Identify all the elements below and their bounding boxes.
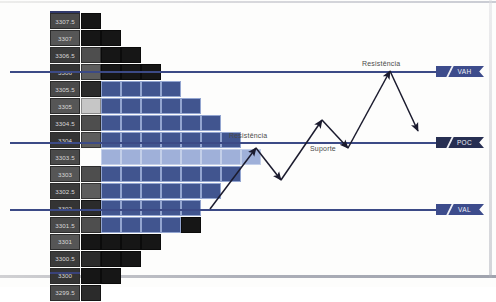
level-tag-vah[interactable]: VAH [436,66,484,77]
histogram-row [81,30,261,46]
histogram-cell [141,234,161,250]
level-tag-val[interactable]: VAL [436,204,484,215]
histogram-cell [181,217,201,233]
price-axis-label-text: 3303 [58,171,72,178]
histogram-row [81,268,261,284]
price-axis-label: 3302.5 [50,183,80,199]
price-axis-label-text: 3301.5 [55,222,75,229]
price-axis-label: 3299.5 [50,285,80,301]
histogram-cell [101,268,121,284]
histogram-cell [161,115,181,131]
histogram-cell [141,149,161,165]
volume-histogram [81,13,261,302]
price-axis: 3307.533073306.533063305.533053304.53304… [50,13,80,302]
histogram-cell [241,149,261,165]
histogram-cell [81,13,101,29]
price-axis-label-text: 3304.5 [55,120,75,127]
histogram-cell [181,183,201,199]
histogram-cell [161,217,181,233]
histogram-cell [121,149,141,165]
histogram-cell [81,251,101,267]
price-axis-label: 3304.5 [50,115,80,131]
price-axis-cap-bottom [50,272,80,274]
histogram-cell [101,47,121,63]
histogram-cell [121,251,141,267]
histogram-cell [101,183,121,199]
histogram-cell [141,81,161,97]
histogram-cell [101,132,121,148]
histogram-cell [181,149,201,165]
histogram-cell [201,149,221,165]
price-axis-label: 3305.5 [50,81,80,97]
histogram-cell [121,166,141,182]
histogram-row [81,47,261,63]
histogram-cell [81,115,101,131]
price-axis-label: 3307.5 [50,13,80,29]
histogram-cell [161,166,181,182]
price-axis-label: 3305 [50,98,80,114]
histogram-cell [141,132,161,148]
page-border-top [0,1,496,3]
price-axis-label: 3304 [50,132,80,148]
histogram-row [81,285,261,301]
histogram-cell [121,183,141,199]
price-axis-label: 3300.5 [50,251,80,267]
level-line-poc [10,142,441,144]
annotation-resistencia-upper: Resistência [362,60,400,67]
histogram-row [81,234,261,250]
level-tag-val-label: VAL [436,204,484,215]
histogram-cell [201,115,221,131]
histogram-cell [101,149,121,165]
price-axis-label: 3301.5 [50,217,80,233]
price-axis-label-text: 3302.5 [55,188,75,195]
histogram-cell [81,217,101,233]
histogram-cell [81,285,101,301]
annotation-suporte: Suporte [310,145,336,152]
histogram-row [81,13,261,29]
histogram-cell [221,166,241,182]
histogram-row [81,149,261,165]
price-axis-label-text: 3300.5 [55,255,75,262]
annotation-resistencia-lower: Resistência [229,132,267,139]
histogram-cell [81,132,101,148]
histogram-row [81,166,261,182]
level-line-val [10,209,441,211]
histogram-row [81,183,261,199]
price-axis-label: 3306.5 [50,47,80,63]
histogram-row [81,98,261,114]
histogram-cell [181,115,201,131]
price-axis-label-text: 3307 [58,35,72,42]
price-axis-label-text: 3301 [58,238,72,245]
histogram-cell [141,166,161,182]
histogram-cell [101,98,121,114]
histogram-cell [81,268,101,284]
histogram-cell [201,183,221,199]
level-tag-poc-label: POC [436,137,484,148]
price-axis-label: 3300 [50,268,80,284]
histogram-row [81,251,261,267]
histogram-cell [81,149,101,165]
histogram-cell [141,115,161,131]
level-line-vah [10,71,441,73]
histogram-cell [121,115,141,131]
histogram-cell [201,166,221,182]
histogram-cell [81,30,101,46]
price-axis-label: 3307 [50,30,80,46]
price-axis-label-text: 3305.5 [55,86,75,93]
histogram-cell [181,166,201,182]
histogram-cell [101,217,121,233]
histogram-cell [101,115,121,131]
price-axis-label: 3301 [50,234,80,250]
histogram-cell [101,234,121,250]
histogram-cell [141,217,161,233]
histogram-cell [121,217,141,233]
page-border-right [489,0,492,278]
histogram-cell [221,149,241,165]
level-tag-poc[interactable]: POC [436,137,484,148]
histogram-cell [101,251,121,267]
price-axis-label: 3303.5 [50,149,80,165]
price-axis-label-text: 3307.5 [55,18,75,25]
price-axis-label-text: 3303.5 [55,154,75,161]
histogram-cell [101,166,121,182]
